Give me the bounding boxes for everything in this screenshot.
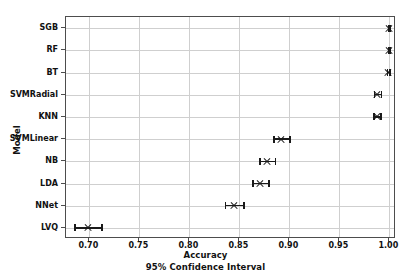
y-tick-label-nnet: NNet — [35, 200, 58, 209]
data-point-marker-nb — [262, 157, 271, 166]
ci-cap-lower — [252, 180, 253, 187]
x-axis-subtitle: 95% Confidence Interval — [0, 262, 411, 272]
ci-row-lvq — [66, 228, 394, 229]
ci-cap-upper — [289, 136, 290, 143]
x-tick-label-0.90: 0.90 — [279, 241, 299, 250]
data-point-marker-lvq — [83, 223, 92, 232]
y-tick-label-rf: RF — [46, 45, 58, 54]
ci-row-sgb — [66, 28, 394, 29]
ci-row-knn — [66, 117, 394, 118]
y-tick-label-lda: LDA — [40, 178, 58, 187]
ci-cap-lower — [74, 224, 75, 231]
ci-cap-upper — [243, 202, 244, 209]
ci-row-nb — [66, 161, 394, 162]
data-point-marker-rf — [384, 46, 393, 55]
plot-area — [65, 16, 395, 238]
ci-row-bt — [66, 73, 394, 74]
x-tick-label-0.70: 0.70 — [79, 241, 99, 250]
x-tick-label-0.80: 0.80 — [179, 241, 199, 250]
data-point-marker-lda — [256, 179, 265, 188]
y-tick-label-sgb: SGB — [40, 23, 58, 32]
data-point-marker-knn — [372, 112, 381, 121]
ci-cap-upper — [268, 180, 269, 187]
y-tick-label-knn: KNN — [38, 111, 58, 120]
data-point-marker-sgb — [384, 24, 393, 33]
x-tick-label-1.00: 1.00 — [379, 241, 399, 250]
y-tick-label-nb: NB — [45, 156, 58, 165]
ci-row-rf — [66, 50, 394, 51]
ci-cap-lower — [225, 202, 226, 209]
ci-cap-upper — [275, 158, 276, 165]
data-point-marker-nnet — [230, 201, 239, 210]
y-tick-label-lvq: LVQ — [41, 222, 58, 231]
data-point-marker-svmlinear — [277, 135, 286, 144]
ci-row-svmradial — [66, 95, 394, 96]
data-point-marker-svmradial — [373, 90, 382, 99]
confidence-interval-dotplot: Model SGBRFBTSVMRadialKNNSVMLinearNBLDAN… — [0, 0, 411, 280]
x-tick-label-0.85: 0.85 — [229, 241, 249, 250]
ci-cap-upper — [101, 224, 102, 231]
data-point-marker-bt — [383, 68, 392, 77]
y-tick-label-svmlinear: SVMLinear — [10, 134, 58, 143]
x-tick-label-0.95: 0.95 — [329, 241, 349, 250]
ci-cap-lower — [259, 158, 260, 165]
ci-row-svmlinear — [66, 139, 394, 140]
y-tick-label-bt: BT — [46, 67, 58, 76]
y-tick-label-svmradial: SVMRadial — [10, 89, 58, 98]
ci-cap-lower — [273, 136, 274, 143]
ci-row-lda — [66, 184, 394, 185]
x-tick-label-0.75: 0.75 — [129, 241, 149, 250]
x-axis-title: Accuracy — [0, 250, 411, 260]
ci-row-nnet — [66, 206, 394, 207]
